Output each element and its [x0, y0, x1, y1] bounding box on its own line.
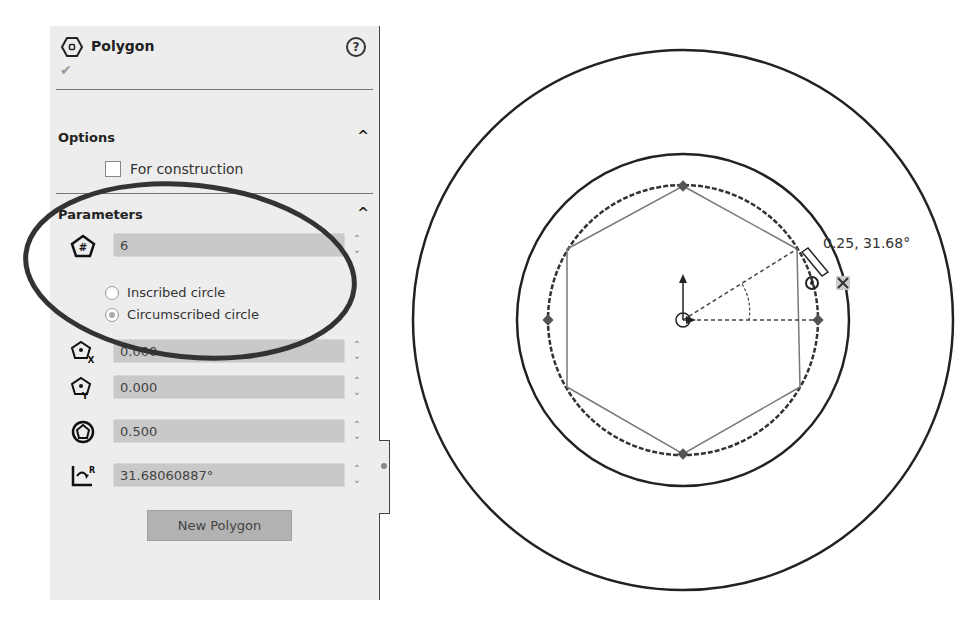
origin-icon [676, 274, 696, 327]
sketch-canvas[interactable] [0, 0, 975, 626]
coincident-snap-icon [836, 276, 850, 290]
radius-dashed-line [683, 249, 797, 320]
angle-arc [742, 284, 750, 320]
cursor-readout: 0.25, 31.68° [823, 235, 910, 251]
pencil-cursor-icon [802, 248, 828, 289]
